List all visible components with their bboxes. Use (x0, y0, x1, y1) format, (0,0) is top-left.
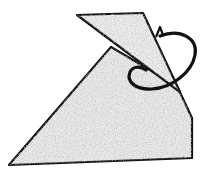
drawing-figure (0, 0, 209, 179)
